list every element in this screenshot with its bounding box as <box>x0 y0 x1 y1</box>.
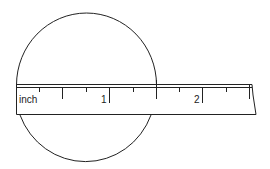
major-label-1: 1 <box>101 94 107 105</box>
ruler: inch 1 2 <box>17 80 257 115</box>
unit-label: inch <box>19 94 37 105</box>
ruler-circle-diagram: inch 1 2 <box>0 0 270 169</box>
major-label-2: 2 <box>194 94 200 105</box>
